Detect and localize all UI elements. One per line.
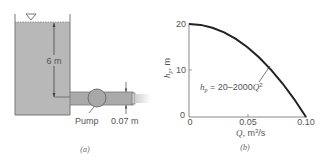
arrow-down-icon: [125, 89, 127, 93]
tank-water: [15, 22, 70, 115]
figure: 6 m Pump 0.07 m (a) 20: [0, 0, 329, 166]
y-tick-20: 20: [176, 19, 186, 29]
water-jet: [135, 94, 151, 103]
pump-curve: [189, 24, 306, 117]
x-axis-label: Q, m3/s: [236, 128, 266, 138]
y-tick-10: 10: [176, 65, 186, 75]
diameter-label: 0.07 m: [111, 116, 139, 126]
caption-b: (b): [240, 143, 250, 152]
equation-label: hp = 20–2000Q2: [200, 82, 263, 93]
y-tick-0: 0: [180, 110, 185, 120]
panel-b: 20 10 0 0 0.05 0.10 hp, m Q, m3/s hp = 2…: [162, 19, 315, 152]
free-surface-icon: [26, 14, 36, 20]
y-axis-label: hp, m: [162, 58, 173, 78]
x-tick-0: 0: [187, 117, 192, 127]
x-tick-0.10: 0.10: [297, 117, 315, 127]
pump-label: Pump: [75, 116, 99, 126]
x-tick-0.05: 0.05: [239, 117, 257, 127]
pump-icon: [88, 89, 106, 107]
panel-a: 6 m Pump 0.07 m (a): [15, 14, 151, 154]
caption-a: (a): [80, 145, 90, 154]
arrow-up-icon: [125, 105, 127, 109]
nozzle: [132, 93, 135, 104]
depth-label: 6 m: [46, 56, 61, 66]
pump-leader-line: [89, 107, 94, 113]
